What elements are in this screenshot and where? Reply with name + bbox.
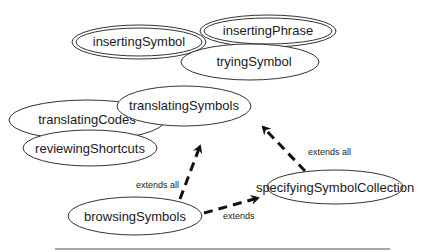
node-label: reviewingShortcuts: [35, 141, 145, 156]
node-translatingSymbols[interactable]: translatingSymbols: [117, 86, 251, 126]
node-insertingSymbol[interactable]: insertingSymbol: [72, 25, 206, 59]
node-label: tryingSymbol: [216, 54, 291, 69]
edge-label-extends: extends: [223, 211, 255, 221]
edge-browsing-to-translating: [180, 146, 200, 199]
node-label: specifyingSymbolCollection: [256, 180, 414, 195]
node-label: translatingSymbols: [129, 98, 239, 113]
edge-label-extends-all-left: extends all: [136, 180, 179, 190]
node-specifyingSymbolCollection[interactable]: specifyingSymbolCollection: [256, 170, 414, 204]
node-insertingPhrase[interactable]: insertingPhrase: [200, 15, 336, 47]
edge-specifying-to-translating: [263, 127, 305, 171]
node-label: translatingCodes: [38, 112, 136, 127]
node-tryingSymbol[interactable]: tryingSymbol: [181, 44, 319, 80]
node-label: insertingSymbol: [93, 34, 186, 49]
node-label: insertingPhrase: [223, 23, 313, 38]
node-reviewingShortcuts[interactable]: reviewingShortcuts: [23, 130, 157, 166]
edge-label-extends-all-right: extends all: [308, 147, 351, 157]
node-label: browsingSymbols: [84, 209, 186, 224]
node-browsingSymbols[interactable]: browsingSymbols: [68, 197, 202, 235]
use-case-diagram: insertingSymbol insertingPhrase tryingSy…: [0, 0, 436, 252]
